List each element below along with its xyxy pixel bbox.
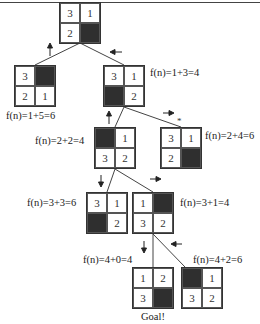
fn-label-right-child: f(n)=1+3=4 <box>150 67 199 78</box>
edge-middle-row4right <box>115 169 153 192</box>
blank-tile <box>35 66 55 86</box>
tile: 3 <box>60 3 80 23</box>
left-arrow-icon <box>110 50 122 55</box>
puzzle-board-starred: 3 1 2 <box>160 127 202 169</box>
edge-right-middle <box>115 107 124 127</box>
tile: 1 <box>181 128 201 148</box>
tile: 3 <box>133 213 153 233</box>
tile: 2 <box>124 86 144 106</box>
star-marker: * <box>177 116 182 126</box>
blank-tile <box>153 288 173 308</box>
tile: 1 <box>202 268 222 288</box>
tile: 3 <box>15 66 35 86</box>
tile: 1 <box>80 3 100 23</box>
tile: 1 <box>133 193 153 213</box>
tile: 2 <box>107 213 127 233</box>
fn-label-row4-right: f(n)=3+1=4 <box>180 197 229 208</box>
down-arrow-icon <box>99 175 104 187</box>
puzzle-board-left-child: 3 2 1 <box>14 65 56 107</box>
tile: 2 <box>153 268 173 288</box>
goal-caption: Goal! <box>141 311 165 322</box>
puzzle-board-row4-right: 1 3 2 <box>132 192 174 234</box>
blank-tile <box>104 86 124 106</box>
tile: 1 <box>107 193 127 213</box>
puzzle-board-goal: 1 2 3 <box>132 267 174 309</box>
fn-label-starred: f(n)=2+4=6 <box>205 130 254 141</box>
tile: 3 <box>182 288 202 308</box>
tile: 1 <box>133 268 153 288</box>
blank-tile <box>181 148 201 168</box>
puzzle-board-middle: 1 3 2 <box>94 127 136 169</box>
blank-tile <box>182 268 202 288</box>
blank-tile <box>87 213 107 233</box>
tile: 3 <box>104 66 124 86</box>
right-arrow-icon <box>150 177 161 182</box>
fn-label-middle: f(n)=2+2=4 <box>35 135 84 146</box>
tile: 3 <box>133 288 153 308</box>
puzzle-board-right-child: 3 1 2 <box>103 65 145 107</box>
tile: 2 <box>60 23 80 43</box>
tile: 1 <box>35 86 55 106</box>
fn-label-bottom-right: f(n)=4+2=6 <box>193 254 242 265</box>
tile: 2 <box>153 213 173 233</box>
tile: 2 <box>202 288 222 308</box>
up-arrow-icon <box>48 43 53 56</box>
down-arrow-icon <box>142 241 147 253</box>
fn-label-left-child: f(n)=1+5=6 <box>6 110 55 121</box>
tile: 3 <box>95 148 115 168</box>
edge-root-right <box>80 43 124 65</box>
fn-label-goal: f(n)=4+0=4 <box>83 254 132 265</box>
tile: 3 <box>87 193 107 213</box>
blank-tile <box>153 193 173 213</box>
puzzle-board-root: 3 1 2 <box>59 2 101 44</box>
right-arrow-icon <box>163 111 174 116</box>
puzzle-board-row4-left: 3 1 2 <box>86 192 128 234</box>
tile: 2 <box>115 148 135 168</box>
tile: 2 <box>15 86 35 106</box>
edge-row4right-bottomright <box>153 234 185 267</box>
tile: 1 <box>115 128 135 148</box>
blank-tile <box>80 23 100 43</box>
tile: 2 <box>161 148 181 168</box>
tile: 1 <box>124 66 144 86</box>
puzzle-board-bottom-right: 1 3 2 <box>181 267 223 309</box>
tile: 3 <box>161 128 181 148</box>
up-arrow-icon <box>107 111 112 124</box>
blank-tile <box>95 128 115 148</box>
edge-right-starred <box>124 107 181 127</box>
edge-root-left <box>35 43 80 65</box>
edge-middle-row4left <box>107 169 115 192</box>
fn-label-row4-left: f(n)=3+3=6 <box>27 197 76 208</box>
left-arrow-icon <box>171 242 182 247</box>
